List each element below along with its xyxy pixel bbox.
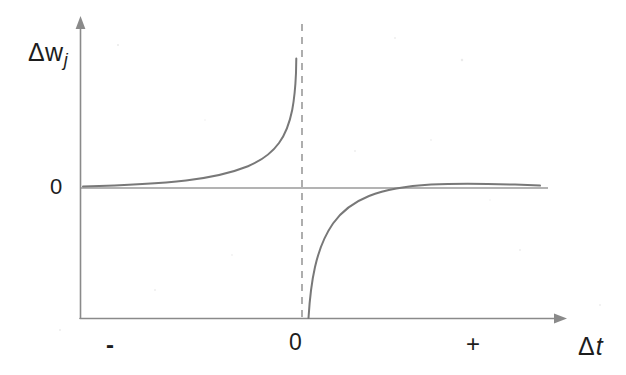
x-axis-arrow-icon bbox=[554, 314, 567, 324]
y-tick-label-zero: 0 bbox=[50, 176, 62, 198]
stdp-figure: Δwj 0 - 0 + Δt bbox=[0, 0, 626, 375]
stdp-plot-canvas bbox=[0, 0, 626, 375]
y-axis-arrow-icon bbox=[76, 16, 86, 29]
y-axis-label-base: Δw bbox=[28, 38, 63, 66]
x-axis-label-variable: t bbox=[595, 332, 603, 360]
x-tick-label-minus: - bbox=[106, 333, 114, 357]
depression-curve bbox=[309, 184, 541, 318]
x-tick-label-zero: 0 bbox=[289, 331, 302, 354]
x-tick-label-plus: + bbox=[466, 332, 480, 356]
x-axis-label-base: Δ bbox=[578, 332, 595, 360]
potentiation-curve bbox=[83, 59, 296, 187]
x-axis-label: Δt bbox=[578, 334, 603, 359]
y-axis-label: Δwj bbox=[28, 40, 68, 69]
y-axis-label-subscript: j bbox=[63, 50, 68, 70]
